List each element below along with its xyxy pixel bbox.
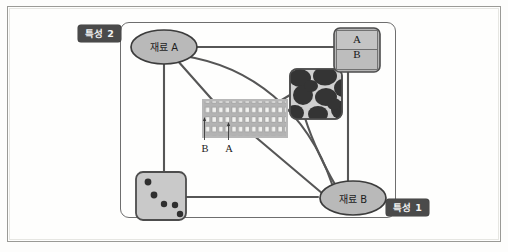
- axis-label-feature-2: 특성 2: [78, 25, 121, 42]
- dispersed-particles-tile: [136, 172, 186, 220]
- node-material-a[interactable]: [131, 30, 197, 64]
- lamellar-structure-tile: [202, 99, 288, 138]
- screenshot-root: 특성 2 특성 1 재료 A 재료 B A B B A: [0, 0, 508, 252]
- edge-blob-to-material-b: [305, 118, 336, 186]
- edge-material-a-to-lamellar: [177, 60, 216, 104]
- diagram-canvas: [0, 0, 508, 252]
- ab-layer-stack-tile: [334, 28, 380, 72]
- axis-label-feature-1: 특성 1: [386, 199, 429, 216]
- blob-structure-tile: [286, 67, 352, 123]
- node-material-b[interactable]: [320, 181, 386, 215]
